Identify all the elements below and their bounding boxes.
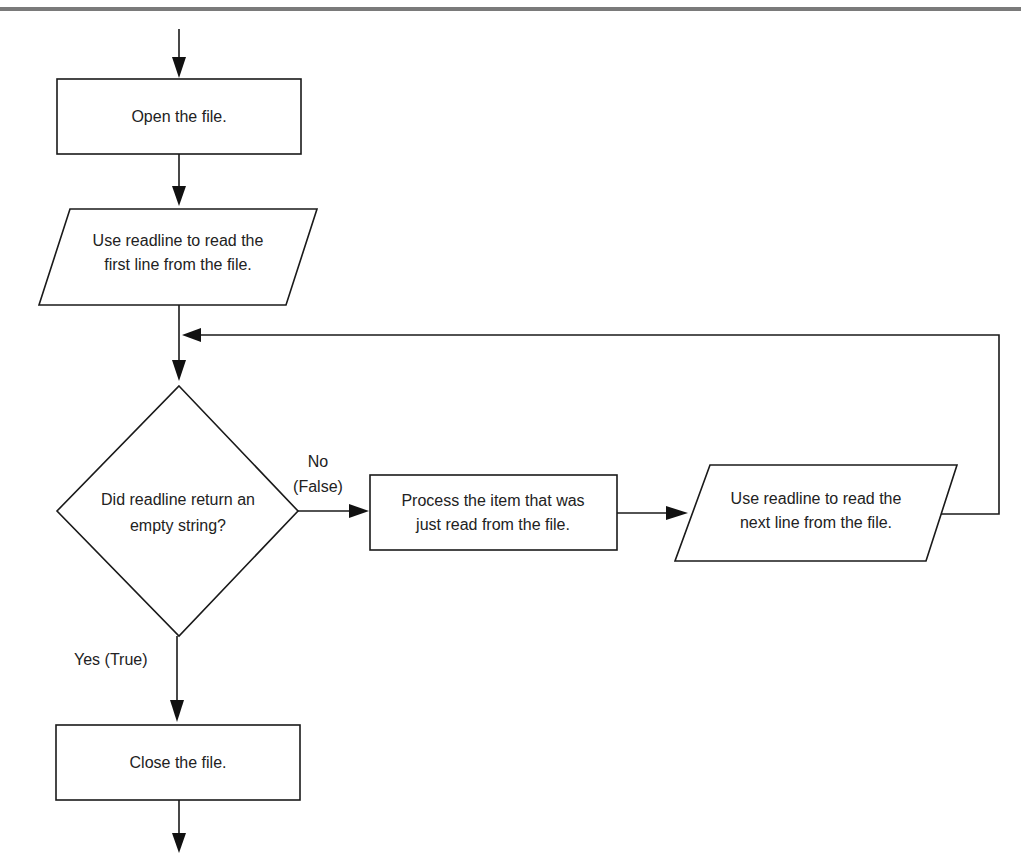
node-process-item-label-1: Process the item that was <box>401 492 584 509</box>
arrow-decision-to-process <box>298 504 369 518</box>
edge-label-no-false: No (False) <box>293 453 343 495</box>
node-read-first-line-label-2: first line from the file. <box>104 256 252 273</box>
entry-arrow <box>172 29 186 78</box>
svg-text:(False): (False) <box>293 478 343 495</box>
flowchart: Open the file. Use readline to read the … <box>0 0 1021 867</box>
svg-text:No: No <box>308 453 329 470</box>
node-process-item-label-2: just read from the file. <box>415 516 570 533</box>
node-read-next-line: Use readline to read the next line from … <box>675 465 957 561</box>
arrow-decision-to-close <box>170 636 184 722</box>
arrow-read-first-to-decision <box>172 305 186 381</box>
node-read-first-line: Use readline to read the first line from… <box>39 209 317 305</box>
node-open-file: Open the file. <box>57 79 301 154</box>
node-decision-empty-string: Did readline return an empty string? <box>57 386 298 636</box>
node-decision-label-1: Did readline return an <box>101 491 255 508</box>
node-read-next-line-label-1: Use readline to read the <box>731 490 902 507</box>
node-close-file: Close the file. <box>56 725 300 800</box>
node-process-item: Process the item that was just read from… <box>370 475 617 550</box>
exit-arrow <box>172 800 186 853</box>
node-read-next-line-label-2: next line from the file. <box>740 514 892 531</box>
node-decision-label-2: empty string? <box>130 517 226 534</box>
node-open-file-label: Open the file. <box>131 108 226 125</box>
node-close-file-label: Close the file. <box>130 754 227 771</box>
arrow-open-to-read-first <box>172 154 186 206</box>
node-read-first-line-label-1: Use readline to read the <box>93 232 264 249</box>
edge-label-yes-true: Yes (True) <box>74 651 148 668</box>
arrow-process-to-read-next <box>617 506 688 520</box>
